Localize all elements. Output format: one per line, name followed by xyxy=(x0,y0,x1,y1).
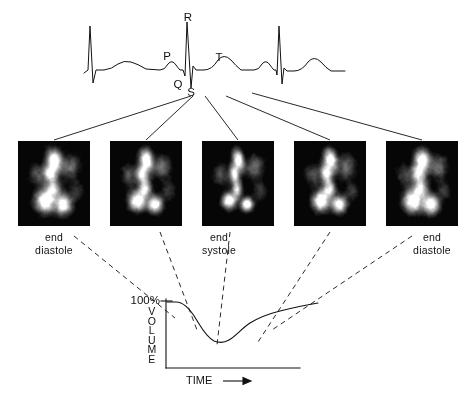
leader-line-frame-4 xyxy=(226,96,330,140)
caption-line-1: end xyxy=(35,231,73,244)
leader-line-frame-1 xyxy=(54,96,191,140)
leader-line-frame-3 xyxy=(205,96,238,140)
ecg-label-p-wave: P xyxy=(163,50,171,62)
y-axis-label-letter: E xyxy=(145,355,159,365)
dashed-line-frame-5 xyxy=(272,236,412,330)
ecg-label-t-wave: T xyxy=(215,51,222,63)
caption-line-2: systole xyxy=(202,244,236,257)
dashed-line-frame-4 xyxy=(258,232,330,342)
caption-line-2: diastole xyxy=(413,244,451,257)
leader-line-frame-5 xyxy=(252,93,422,140)
ecg-label-r-wave: R xyxy=(184,11,192,23)
caption-end-diastole-right: end diastole xyxy=(413,231,451,256)
caption-line-1: end xyxy=(202,231,236,244)
ecg-label-s-wave: S xyxy=(187,86,195,98)
x-axis-label-time: TIME xyxy=(186,374,212,386)
caption-line-2: diastole xyxy=(35,244,73,257)
gated-blood-pool-figure: P Q R S T end diastole end systole end d… xyxy=(0,0,472,400)
time-axis-arrow xyxy=(223,378,251,385)
caption-line-1: end xyxy=(413,231,451,244)
ecg-to-scan-leader-lines xyxy=(54,93,422,140)
caption-end-systole: end systole xyxy=(202,231,236,256)
y-axis-label-volume: VOLUME xyxy=(145,307,159,365)
figure-linework xyxy=(0,0,472,400)
ecg-label-q-wave: Q xyxy=(174,78,183,90)
caption-end-diastole-left: end diastole xyxy=(35,231,73,256)
ventricular-volume-curve xyxy=(167,302,318,342)
